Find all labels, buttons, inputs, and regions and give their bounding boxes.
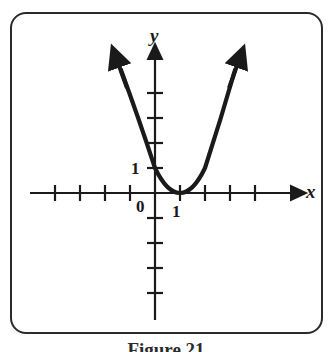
y-axis-label: y [150,26,158,45]
curve-arrowheads [118,63,238,88]
figure-caption: Figure 21 [0,340,332,352]
figure-container: y x 1 0 1 Figure 21 [0,0,332,352]
x-axis-tick-label-one: 1 [172,203,181,220]
origin-label-zero: 0 [136,198,145,215]
y-axis-tick-label-one: 1 [131,160,140,177]
coordinate-plot [0,0,332,352]
x-axis-label: x [306,182,316,201]
